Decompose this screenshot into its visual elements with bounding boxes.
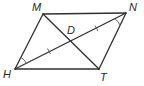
side-mn	[43, 13, 126, 14]
parallelogram-diagram: M N H T D	[0, 0, 144, 86]
diagonal-hn	[15, 13, 126, 69]
angle-arc-n	[115, 19, 121, 26]
vertex-label-t: T	[100, 71, 108, 83]
diagonal-mt	[43, 14, 99, 69]
angle-arc-h	[21, 58, 27, 64]
vertex-label-m: M	[32, 1, 42, 13]
side-nt	[99, 13, 126, 69]
side-hm	[15, 14, 43, 69]
intersection-label-d: D	[67, 24, 75, 36]
vertex-label-h: H	[3, 68, 11, 80]
vertex-label-n: N	[129, 1, 137, 13]
